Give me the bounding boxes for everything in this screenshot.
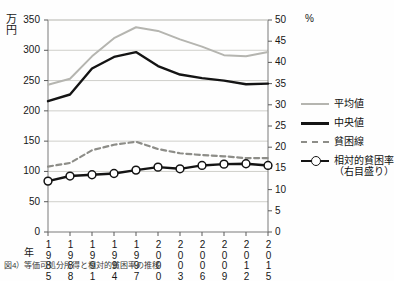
legend-label-mean: 平均値 [334, 98, 364, 109]
left-axis-tick: 200 [8, 106, 40, 116]
left-axis-tick: 150 [8, 136, 40, 146]
legend-key-median-icon [300, 117, 330, 129]
left-axis-tick: 300 [8, 45, 40, 55]
right-axis-tick: 15 [275, 163, 297, 173]
legend-item-mean: 平均値 [300, 98, 394, 112]
right-axis-tick: 25 [275, 121, 297, 131]
x-axis-tick: 2015 [263, 239, 273, 281]
legend-key-poverty-line-icon [300, 136, 330, 148]
x-axis-tick: 2003 [175, 239, 185, 281]
right-axis-tick: 0 [275, 227, 297, 237]
right-axis-tick: 40 [275, 57, 297, 67]
x-axis-tick: 2000 [153, 239, 163, 281]
right-axis-tick: 35 [275, 79, 297, 89]
right-axis-tick: 10 [275, 185, 297, 195]
right-axis-tick: 50 [275, 15, 297, 25]
x-axis-tick: 2012 [241, 239, 251, 281]
figure-caption: 図4）等価可処分所得と相対的貧困率の推移 [4, 261, 388, 270]
left-axis-tick: 250 [8, 76, 40, 86]
right-axis-tick: 30 [275, 100, 297, 110]
left-axis-tick: 50 [8, 197, 40, 207]
legend-label-poverty-rate: 相対的貧困率 （右目盛り） [334, 155, 394, 177]
left-axis-tick: 0 [8, 227, 40, 237]
right-axis-tick: 20 [275, 142, 297, 152]
legend-item-median: 中央値 [300, 117, 394, 131]
chart-legend: 平均値 中央値 貧困線 相対的貧困率 （右目盛り） [300, 98, 394, 174]
right-axis-tick: 45 [275, 36, 297, 46]
x-axis-tick: 1988 [65, 239, 75, 281]
x-axis-tick: 1994 [109, 239, 119, 281]
x-axis-tick: 1997 [131, 239, 141, 281]
x-axis-tick: 1985 [43, 239, 53, 281]
legend-label-median: 中央値 [334, 117, 364, 128]
legend-key-poverty-rate-icon [300, 155, 330, 167]
legend-key-mean-icon [300, 98, 330, 110]
x-axis-tick: 2006 [197, 239, 207, 281]
left-axis-tick: 350 [8, 15, 40, 25]
legend-label-poverty-line: 貧困線 [334, 136, 364, 147]
left-axis-tick: 100 [8, 166, 40, 176]
legend-label-poverty-rate-main: 相対的貧困率 [334, 155, 394, 166]
legend-item-poverty-line: 貧困線 [300, 136, 394, 150]
legend-item-poverty-rate: 相対的貧困率 （右目盛り） [300, 155, 394, 169]
legend-label-poverty-rate-sub: （右目盛り） [334, 166, 394, 177]
x-axis-tick: 2009 [219, 239, 229, 281]
x-axis-tick: 1991 [87, 239, 97, 281]
right-axis-tick: 5 [275, 206, 297, 216]
circle-marker-icon [311, 156, 321, 166]
